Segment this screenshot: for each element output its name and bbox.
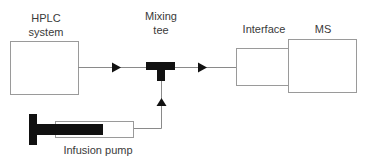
hplc-system-box [11, 42, 79, 95]
ms-label: MS [308, 22, 338, 36]
mixing-tee-label-line1: Mixing [136, 9, 186, 23]
mixing-tee-label: Mixing tee [136, 9, 186, 37]
mixing-tee-label-line2: tee [136, 23, 186, 37]
infusion-pump-label: Infusion pump [58, 143, 138, 157]
mixing-tee-icon [146, 62, 175, 81]
hplc-label-line2: system [18, 25, 74, 39]
interface-box [237, 49, 289, 86]
lc-ms-infusion-diagram: HPLC system Mixing tee Interface MS Infu… [0, 0, 366, 162]
arrow-right-icon [112, 63, 121, 73]
interface-label: Interface [236, 22, 292, 36]
hplc-label-line1: HPLC [18, 11, 74, 25]
pump-to-tee-line [133, 81, 162, 129]
arrow-right-icon [198, 63, 207, 73]
arrow-up-icon [157, 98, 167, 106]
infusion-pump-syringe-icon [29, 114, 134, 145]
ms-box [289, 40, 357, 93]
hplc-system-label: HPLC system [18, 11, 74, 39]
